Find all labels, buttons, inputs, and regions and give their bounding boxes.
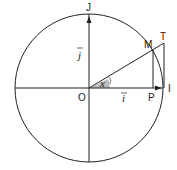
x-axis-arrow-icon	[155, 86, 162, 91]
label-P: P	[148, 92, 155, 103]
label-J: J	[86, 2, 91, 13]
label-I: I	[168, 83, 171, 94]
label-O: O	[78, 92, 86, 103]
label-M: M	[144, 39, 152, 50]
label-angle-x: x	[99, 77, 105, 89]
label-vector-i: i	[122, 92, 125, 104]
label-T: T	[160, 31, 166, 42]
unit-circle-diagram: J O I M P T j i x	[0, 0, 177, 170]
label-vector-j: j	[76, 49, 81, 61]
y-axis-arrow-icon	[87, 16, 92, 23]
